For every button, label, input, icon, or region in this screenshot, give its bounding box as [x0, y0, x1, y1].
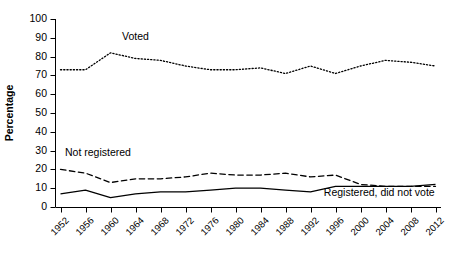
series-annotation: Registered, did not vote	[324, 186, 435, 198]
x-tick-label: 1992	[298, 215, 321, 238]
x-tick-label: 1984	[248, 215, 271, 238]
x-tick-label: 1996	[323, 215, 346, 238]
x-tick-label: 2000	[348, 215, 371, 238]
x-tick-label: 1956	[73, 215, 96, 238]
y-tick-label: 10	[35, 181, 47, 193]
chart-canvas: 0102030405060708090100 Percentage 195219…	[0, 0, 456, 258]
x-tick-labels: 1952195619601964196819721976198019841988…	[48, 215, 446, 238]
y-tick-marks	[51, 20, 56, 208]
x-tick-marks	[62, 208, 437, 213]
line-chart: 0102030405060708090100 Percentage 195219…	[0, 0, 456, 258]
y-tick-label: 90	[35, 31, 47, 43]
x-tick-label: 1968	[148, 215, 171, 238]
y-tick-label: 30	[35, 144, 47, 156]
y-tick-label: 60	[35, 87, 47, 99]
y-tick-label: 40	[35, 125, 47, 137]
data-series-group	[61, 53, 436, 198]
y-axis: 0102030405060708090100 Percentage	[3, 12, 56, 212]
x-tick-label: 1988	[273, 215, 296, 238]
series-line-voted	[61, 53, 436, 74]
x-tick-label: 1964	[123, 215, 146, 238]
series-annotation: Not registered	[65, 146, 131, 158]
y-tick-label: 0	[41, 200, 47, 212]
x-tick-label: 1960	[98, 215, 121, 238]
y-tick-label: 100	[29, 12, 47, 24]
x-tick-label: 1972	[173, 215, 196, 238]
x-tick-label: 2012	[423, 215, 446, 238]
y-tick-label: 20	[35, 162, 47, 174]
x-tick-label: 2008	[398, 215, 421, 238]
series-annotation: Voted	[122, 30, 149, 42]
y-tick-labels: 0102030405060708090100	[29, 12, 47, 212]
series-line-not-registered	[61, 169, 436, 186]
x-axis: 1952195619601964196819721976198019841988…	[48, 208, 446, 238]
y-tick-label: 80	[35, 50, 47, 62]
x-tick-label: 2004	[373, 215, 396, 238]
x-tick-label: 1980	[223, 215, 246, 238]
x-tick-label: 1976	[198, 215, 221, 238]
y-tick-label: 70	[35, 68, 47, 80]
x-tick-label: 1952	[48, 215, 71, 238]
y-tick-label: 50	[35, 106, 47, 118]
y-axis-title: Percentage	[3, 85, 15, 142]
